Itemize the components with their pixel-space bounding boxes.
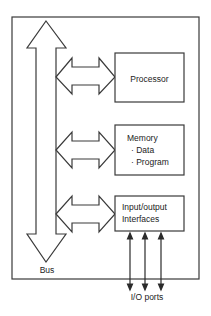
io-label-line1: Input/output bbox=[122, 202, 168, 212]
processor-label: Processor bbox=[130, 74, 168, 84]
bus-arrow-icon bbox=[27, 21, 66, 262]
io-ports-label: I/O ports bbox=[131, 292, 164, 302]
io-port-arrows bbox=[128, 233, 164, 290]
computer-architecture-diagram: Processor Memory · Data · Program Input/… bbox=[0, 0, 211, 316]
memory-item-program: · Program bbox=[131, 157, 169, 167]
memory-item-data: · Data bbox=[131, 145, 154, 155]
io-label-line2: Interfaces bbox=[122, 214, 159, 224]
io-bus-link-icon bbox=[56, 196, 115, 232]
memory-bus-link-icon bbox=[56, 132, 115, 168]
memory-label: Memory bbox=[127, 133, 158, 143]
processor-bus-link-icon bbox=[56, 58, 115, 94]
bus-label: Bus bbox=[40, 265, 55, 275]
